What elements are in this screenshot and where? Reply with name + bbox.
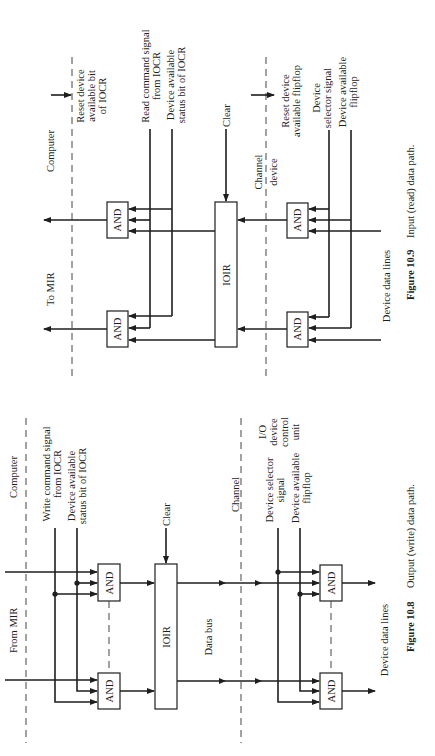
read-command-label-line2: from IOCR: [151, 52, 162, 100]
figure-caption-number: Figure 10.8: [405, 601, 416, 652]
device-available-label-line1: Device available: [337, 57, 348, 128]
reset-bit-label-line2: available bit: [86, 70, 97, 122]
reset-flipflop-label-line2: available flipflop: [291, 65, 302, 137]
junction-dot: [275, 569, 280, 574]
page-diagrams: Computer To MIR Reset device available b…: [0, 0, 435, 756]
and-label: AND: [112, 208, 123, 231]
device-status-line: [77, 528, 97, 691]
device-status-label-line2: status bit of IOCR: [176, 47, 187, 124]
device-selector-label-line1: Device selector: [264, 457, 275, 523]
device-available-label-line2: flipflop: [301, 472, 312, 504]
zone-label-computer: Computer: [45, 130, 56, 172]
and-label: AND: [104, 679, 115, 702]
and-label: AND: [104, 571, 115, 594]
data-bus-label: Data bus: [203, 618, 214, 655]
device-status-label-line1: Device available: [165, 50, 176, 121]
write-command-label-line1: Write command signal: [41, 426, 52, 521]
figure-caption-text: Output (write) data path.: [405, 484, 417, 588]
write-command-label-line2: from IOCR: [52, 450, 63, 498]
io-unit-label-line4: unit: [290, 424, 301, 440]
to-mir-label: To MIR: [45, 273, 56, 306]
device-data-lines-label: Device data lines: [381, 250, 392, 322]
device-selector-label-line2: selector signal: [322, 68, 333, 128]
io-unit-label-line2: device: [268, 418, 279, 446]
junction-dot: [297, 591, 302, 596]
io-unit-label-line3: control: [279, 417, 290, 447]
ioir-label: IOIR: [221, 264, 232, 286]
device-selector-line: [278, 528, 319, 702]
device-available-line: [300, 528, 319, 691]
data-bus-arrow-icon: [219, 580, 226, 586]
reset-flipflop-label-line1: Reset device: [280, 74, 291, 128]
and-label: AND: [292, 208, 303, 231]
junction-dot: [52, 591, 57, 596]
zone-label-channel: Channel: [253, 154, 264, 189]
figure-10-9-input-read-data-path: Computer To MIR Reset device available b…: [44, 29, 417, 378]
and-label: AND: [292, 317, 303, 340]
io-unit-label-line1: I/O: [257, 425, 268, 439]
and-label: AND: [326, 679, 337, 702]
zone-label-computer: Computer: [8, 456, 19, 498]
device-data-lines-label: Device data lines: [379, 604, 390, 676]
ioir-label: IOIR: [161, 626, 172, 648]
from-mir-label: From MIR: [8, 608, 19, 653]
figure-caption-number: Figure 10.9: [405, 249, 416, 300]
device-status-label-line1: Device available: [66, 451, 77, 522]
write-command-line: [55, 528, 97, 702]
data-bus-arrow-icon: [219, 678, 226, 684]
junction-dot: [74, 580, 79, 585]
device-status-label-line2: status bit of IOCR: [77, 448, 88, 525]
reset-bit-label-line1: Reset device: [75, 69, 86, 123]
device-available-label-line1: Device available: [290, 453, 301, 524]
reset-bit-label-line3: of IOCR: [97, 78, 108, 114]
zone-label-channel: Channel: [230, 477, 241, 512]
read-command-label-line1: Read command signal: [140, 29, 151, 122]
device-available-label-line2: flipflop: [348, 76, 359, 108]
and-label: AND: [326, 571, 337, 594]
figure-10-8-output-write-data-path: Computer From MIR Channel I/O device con…: [5, 417, 417, 743]
and-label: AND: [112, 317, 123, 340]
device-selector-label-line2: signal: [275, 477, 286, 502]
zone-label-device: device: [268, 158, 279, 186]
clear-label: Clear: [161, 503, 172, 526]
data-bus-arrow-icon: [255, 678, 262, 684]
data-bus-arrow-icon: [255, 580, 262, 586]
clear-label: Clear: [221, 104, 232, 127]
figure-caption-text: Input (read) data path.: [405, 145, 417, 238]
device-selector-label-line1: Device: [311, 83, 322, 113]
